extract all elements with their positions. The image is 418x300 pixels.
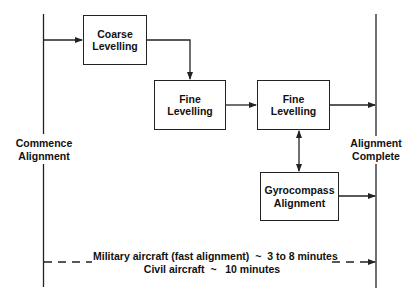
box-label-line: Levelling (92, 40, 138, 53)
label-line: Complete (338, 150, 414, 163)
coarse-levelling-box: Coarse Levelling (83, 15, 147, 65)
label-line: Alignment (338, 137, 414, 150)
gyrocompass-alignment-box: Gyrocompass Alignment (260, 172, 339, 221)
box-label-line: Levelling (271, 105, 317, 118)
label-line: Commence (4, 137, 84, 150)
military-timing-label: Military aircraft (fast alignment) ~ 3 t… (93, 250, 331, 263)
box-label-line: Alignment (274, 197, 325, 210)
commence-alignment-label: Commence Alignment (4, 137, 84, 162)
box-label-line: Fine (283, 93, 305, 106)
box-label-line: Fine (179, 93, 201, 106)
box-label-line: Coarse (97, 28, 133, 41)
box-label-line: Gyrocompass (264, 184, 334, 197)
box-label-line: Levelling (167, 105, 213, 118)
fine-levelling-box-1: Fine Levelling (154, 80, 226, 130)
fine-levelling-box-2: Fine Levelling (257, 80, 330, 130)
civil-timing-label: Civil aircraft ~ 10 minutes (93, 263, 331, 276)
label-line: Alignment (4, 150, 84, 163)
arrow-coarse-to-fine1 (146, 40, 190, 79)
alignment-complete-label: Alignment Complete (338, 137, 414, 162)
